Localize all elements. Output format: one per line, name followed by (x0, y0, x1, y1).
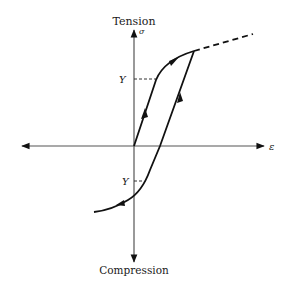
compression-label: Compression (99, 264, 169, 276)
tension-label: Tension (113, 15, 156, 28)
unloading-line (94, 51, 194, 212)
arrow-right-icon (169, 57, 179, 66)
axes (22, 30, 264, 262)
epsilon-label: ε (269, 141, 274, 152)
sigma-label: σ (139, 27, 145, 36)
stress-strain-diagram: Tension σ ε Y Y Compression (0, 0, 287, 287)
dashed-extension (194, 34, 253, 51)
lower-yield-label: Y (122, 176, 130, 187)
loading-curve (134, 51, 194, 146)
upper-yield-label: Y (119, 74, 127, 85)
arrow-left-icon (116, 200, 125, 206)
